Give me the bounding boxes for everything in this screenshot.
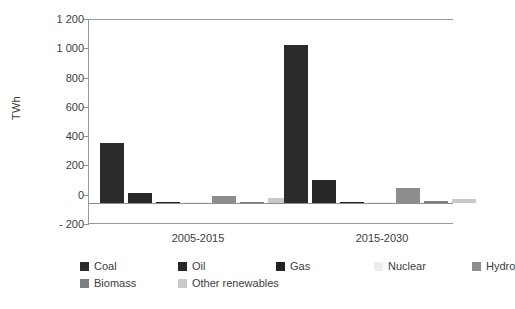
- bar-oil: [128, 193, 152, 203]
- bar-other-renewables: [452, 199, 476, 203]
- y-tick-label-0: 0: [32, 189, 84, 201]
- bar-gas: [340, 202, 364, 203]
- legend-item-coal[interactable]: Coal: [80, 260, 117, 272]
- y-tick-label-1000: 1 000: [32, 42, 84, 54]
- legend-row-2: BiomassOther renewables: [80, 277, 470, 294]
- bar-nuclear: [368, 202, 392, 203]
- y-tick-600: [84, 107, 89, 108]
- y-tick-800: [84, 78, 89, 79]
- y-tick-400: [84, 136, 89, 137]
- legend-label: Oil: [192, 260, 205, 272]
- y-tick-label-800: 800: [32, 72, 84, 84]
- bar-biomass: [424, 201, 448, 203]
- legend-item-biomass[interactable]: Biomass: [80, 277, 136, 289]
- legend-item-nuclear[interactable]: Nuclear: [374, 260, 426, 272]
- legend-swatch-icon: [374, 262, 383, 271]
- bar-gas: [156, 202, 180, 203]
- y-tick-label-1200: 1 200: [32, 13, 84, 25]
- y-tick-0: [84, 195, 89, 196]
- bar-hydro: [212, 196, 236, 203]
- legend-item-gas[interactable]: Gas: [276, 260, 310, 272]
- bar-coal: [100, 143, 124, 203]
- legend-item-other-renewables[interactable]: Other renewables: [178, 277, 279, 289]
- y-tick-label-200: 200: [32, 159, 84, 171]
- y-tick-1200: [84, 19, 89, 20]
- y-tick-200: [84, 165, 89, 166]
- bar-nuclear: [184, 202, 208, 203]
- bar-group: [284, 19, 480, 203]
- legend-swatch-icon: [472, 262, 481, 271]
- legend-label: Coal: [94, 260, 117, 272]
- y-tick-label--200: - 200: [32, 218, 84, 230]
- chart-legend: CoalOilGasNuclearHydro BiomassOther rene…: [80, 260, 470, 294]
- y-tick-label-400: 400: [32, 130, 84, 142]
- zero-baseline: [88, 203, 453, 204]
- y-axis-tick-labels: 1 2001 0008006004002000- 200: [28, 19, 84, 224]
- plot-bottom-border: [88, 223, 453, 224]
- bar-hydro: [396, 188, 420, 203]
- legend-label: Biomass: [94, 277, 136, 289]
- y-axis-title-text: TWh: [10, 96, 22, 120]
- y-tick-1000: [84, 48, 89, 49]
- legend-label: Nuclear: [388, 260, 426, 272]
- legend-row-1: CoalOilGasNuclearHydro: [80, 260, 470, 277]
- legend-label: Gas: [290, 260, 310, 272]
- x-axis-label-2005-2015: 2005-2015: [172, 232, 225, 244]
- legend-swatch-icon: [178, 279, 187, 288]
- legend-swatch-icon: [276, 262, 285, 271]
- bar-oil: [312, 180, 336, 203]
- legend-item-hydro[interactable]: Hydro: [472, 260, 515, 272]
- legend-label: Hydro: [486, 260, 515, 272]
- bar-biomass: [240, 202, 264, 203]
- bar-coal: [284, 45, 308, 203]
- y-tick--200: [84, 224, 89, 225]
- legend-item-oil[interactable]: Oil: [178, 260, 205, 272]
- legend-swatch-icon: [80, 262, 89, 271]
- y-tick-label-600: 600: [32, 101, 84, 113]
- legend-label: Other renewables: [192, 277, 279, 289]
- plot-area: [88, 19, 453, 224]
- legend-swatch-icon: [80, 279, 89, 288]
- x-axis-label-2015-2030: 2015-2030: [356, 232, 409, 244]
- y-axis-title: TWh: [2, 0, 30, 215]
- bar-group: [100, 19, 296, 203]
- legend-swatch-icon: [178, 262, 187, 271]
- y-axis-line: [88, 19, 89, 224]
